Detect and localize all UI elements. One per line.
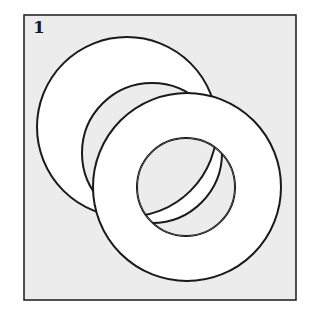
figure-canvas <box>0 0 317 316</box>
figure-label: 1 <box>33 17 45 37</box>
